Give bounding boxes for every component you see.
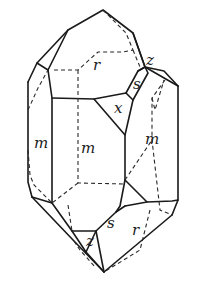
face-label-z-top: z xyxy=(145,51,154,69)
face-label-x: x xyxy=(114,99,123,117)
face-label-s-top: s xyxy=(133,75,141,93)
face-label-m-center: m xyxy=(81,139,95,157)
face-label-r-top: r xyxy=(93,56,101,74)
quartz-crystal-diagram: r z s x m m m s z r xyxy=(0,0,203,292)
face-label-m-right: m xyxy=(145,130,159,148)
face-label-m-left: m xyxy=(34,134,48,152)
face-label-r-bottom: r xyxy=(132,221,140,239)
face-label-z-bottom: z xyxy=(85,232,94,250)
face-label-s-bottom: s xyxy=(107,214,115,232)
